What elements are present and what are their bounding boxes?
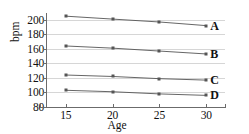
data-point-marker [205,24,208,27]
data-point-marker [64,44,67,47]
series-label-a: A [210,18,219,33]
data-point-marker [158,20,161,23]
data-point-marker [111,47,114,50]
chart-screenshot: 80100120140160180200 bpm Age ABCD 152025… [0,0,249,134]
x-tick-label: 15 [60,109,71,121]
x-tick-mark [159,104,160,108]
y-tick-mark [43,34,47,35]
data-point-marker [111,75,114,78]
x-tick-mark [113,104,114,108]
x-axis-line [40,107,226,108]
data-point-marker [64,89,67,92]
data-point-marker [111,90,114,93]
x-axis-left-cap [40,104,41,108]
data-point-marker [158,77,161,80]
data-point-marker [64,15,67,18]
x-tick-label: 30 [201,109,212,121]
y-tick-mark [43,78,47,79]
series-label-d: D [210,88,219,103]
data-point-marker [111,18,114,21]
series-line [66,90,207,95]
series-line [66,16,207,25]
series-line [66,46,207,54]
data-point-marker [158,92,161,95]
y-tick-mark [43,63,47,64]
data-point-marker [205,52,208,55]
data-point-marker [64,74,67,77]
x-tick-label: 25 [154,109,165,121]
x-tick-mark [206,104,207,108]
series-label-c: C [210,73,219,88]
series-label-b: B [210,46,218,61]
x-axis-right-cap [225,104,226,108]
series-line [66,75,207,80]
y-axis-title: bpm [9,22,21,42]
y-tick-mark [43,107,47,108]
data-point-marker [158,50,161,53]
data-point-marker [205,94,208,97]
x-tick-mark [66,104,67,108]
y-tick-mark [43,20,47,21]
data-point-marker [205,79,208,82]
x-tick-label: 20 [107,109,118,121]
y-tick-mark [43,49,47,50]
y-tick-mark [43,92,47,93]
